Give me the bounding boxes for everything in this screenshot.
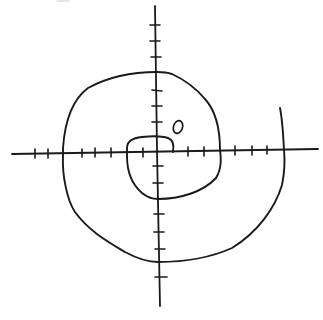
spiral-curve (63, 72, 285, 262)
origin-label-o (172, 119, 185, 134)
smudge-mark (55, 0, 71, 2)
x-axis (12, 149, 318, 154)
spiral-diagram: O (0, 0, 323, 320)
